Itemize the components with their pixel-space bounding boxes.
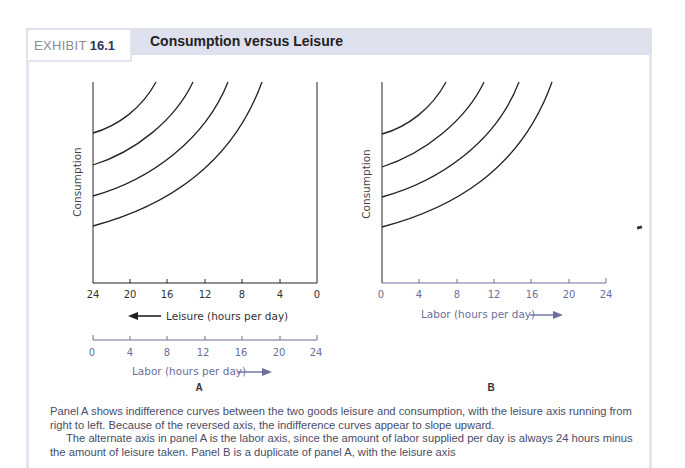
caption-paragraph-1: Panel A shows indifference curves betwee… [50,405,650,432]
caption-paragraph-2: The alternate axis in panel A is the lab… [50,432,650,459]
panel-b-curve-1 [382,82,446,134]
svg-text:20: 20 [273,347,286,358]
svg-text:0: 0 [89,347,95,358]
panel-a: 242016 1284 0 Leisure (hours per day) 04… [71,82,322,393]
panel-b-labor-axis-label: Labor (hours per day) [421,308,535,320]
panel-a-leisure-tick-labels: 242016 1284 0 [87,289,321,300]
panel-a-label: A [195,382,202,393]
svg-text:4: 4 [127,347,133,358]
panel-a-curve-3 [93,82,228,196]
panel-a-curve-2 [93,82,193,165]
panel-a-leisure-axis-label: Leisure (hours per day) [166,310,288,322]
svg-text:24: 24 [600,289,613,300]
panel-b-indifference-curves [382,82,552,227]
panel-b-y-axis-label: Consumption [360,149,372,219]
svg-text:12: 12 [197,347,210,358]
svg-text:4: 4 [277,289,283,300]
svg-text:8: 8 [164,347,170,358]
svg-text:0: 0 [378,289,384,300]
svg-text:20: 20 [124,289,137,300]
svg-text:8: 8 [239,289,245,300]
svg-text:12: 12 [199,289,212,300]
svg-text:16: 16 [235,347,248,358]
svg-text:16: 16 [161,289,174,300]
svg-text:12: 12 [488,289,501,300]
svg-text:24: 24 [87,289,100,300]
panel-b-curve-3 [382,82,519,197]
panel-b-curve-4 [382,82,552,227]
panel-a-labor-ticks [93,335,317,340]
panel-a-leisure-ticks [130,279,280,283]
svg-text:20: 20 [563,289,576,300]
panel-a-curve-1 [93,82,156,133]
panel-b-label: B [487,382,494,393]
panel-b-curve-2 [382,82,484,167]
panel-b-labor-ticks [419,278,606,283]
svg-text:0: 0 [314,289,320,300]
panel-a-leisure-arrow-icon [128,312,161,320]
svg-text:8: 8 [454,289,460,300]
exhibit-caption: Panel A shows indifference curves betwee… [50,405,650,459]
panel-a-y-axis-label: Consumption [71,147,83,217]
panel-a-labor-axis-label: Labor (hours per day) [132,365,246,377]
svg-text:4: 4 [416,289,422,300]
panel-b-labor-tick-labels: 048 121620 24 [378,289,613,300]
panel-a-curve-4 [93,82,262,226]
svg-text:24: 24 [310,347,323,358]
panel-a-labor-tick-labels: 048 121620 24 [89,347,323,358]
panel-b: 048 121620 24 Labor (hours per day) B Co… [360,82,612,393]
panel-a-indifference-curves [93,82,262,226]
svg-text:16: 16 [526,289,539,300]
